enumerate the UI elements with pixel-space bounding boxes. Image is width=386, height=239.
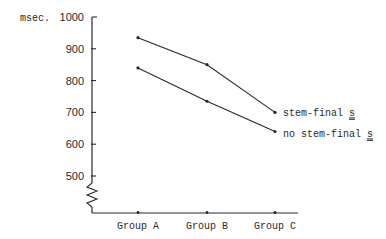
series-labels: stem-final sno stem-final s xyxy=(283,108,373,140)
axis-break-zigzag-icon xyxy=(87,183,97,207)
x-tick-marker xyxy=(274,211,277,214)
x-tick-label: Group C xyxy=(254,221,296,232)
y-tick-label: 900 xyxy=(66,43,84,55)
y-tick-label: 600 xyxy=(66,138,84,150)
line-chart: 1000900800700600500msec. Group AGroup BG… xyxy=(0,0,386,239)
data-point xyxy=(136,36,139,39)
data-point xyxy=(273,111,276,114)
y-axis: 1000900800700600500msec. xyxy=(20,11,97,213)
x-tick-label: Group B xyxy=(186,221,228,232)
x-tick-label: Group A xyxy=(117,221,159,232)
y-tick-label: 1000 xyxy=(60,11,84,23)
data-series xyxy=(136,36,276,133)
y-tick-label: 500 xyxy=(66,170,84,182)
y-axis-title: msec. xyxy=(20,13,50,24)
y-tick-label: 800 xyxy=(66,75,84,87)
data-point xyxy=(273,130,276,133)
y-tick-label: 700 xyxy=(66,106,84,118)
x-axis: Group AGroup BGroup C xyxy=(92,211,298,232)
x-tick-marker xyxy=(137,211,140,214)
data-point xyxy=(205,100,208,103)
series-label: no stem-final s xyxy=(283,129,373,140)
data-point xyxy=(205,63,208,66)
series-label: stem-final s xyxy=(283,108,355,119)
x-tick-marker xyxy=(206,211,209,214)
data-point xyxy=(136,66,139,69)
series-line xyxy=(138,68,275,132)
